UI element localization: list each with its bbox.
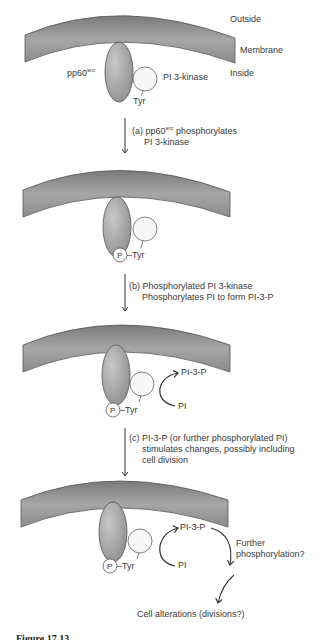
label-phosphate: P — [117, 250, 122, 261]
label-outside: Outside — [230, 14, 261, 25]
cell-alteration-arrow — [218, 575, 234, 603]
label-pi: PI — [178, 401, 187, 412]
label-further-2: phosphorylation? — [236, 549, 305, 560]
label-p-tyr: –Tyr — [117, 561, 135, 572]
figure-caption: Figure 17.13 — [16, 633, 69, 640]
step-b-text: (b) Phosphorylated PI 3-kinase Phosphory… — [129, 281, 274, 303]
panel-4 — [21, 481, 234, 603]
label-pi3p: PI-3-P — [180, 522, 206, 533]
label-pi: PI — [178, 560, 187, 571]
label-cell-alterations: Cell alterations (divisions?) — [137, 609, 245, 620]
pp60src-protein — [105, 42, 133, 102]
label-pi3p: PI-3-P — [181, 367, 207, 378]
label-p-tyr: –Tyr — [120, 405, 138, 416]
label-p-tyr: –Tyr — [127, 250, 145, 261]
label-inside: Inside — [230, 68, 254, 79]
label-membrane: Membrane — [240, 45, 283, 56]
step-a-text: (a) pp60src phosphorylates PI 3-kinase — [132, 123, 237, 148]
further-phosphorylation-arrow — [211, 528, 231, 565]
label-phosphate: P — [107, 561, 112, 572]
step-c-text: (c) PI-3-P (or further phosphorylated PI… — [129, 433, 295, 466]
pi3-kinase — [133, 67, 157, 91]
label-pp60src: pp60src — [67, 65, 95, 79]
label-further-1: Further — [236, 538, 265, 549]
label-phosphate: P — [110, 405, 115, 416]
label-pi3-kinase: PI 3-kinase — [163, 72, 208, 83]
pathway-diagram — [0, 0, 330, 640]
label-tyr: Tyr — [133, 96, 146, 107]
pi-to-pi3p-arrow — [160, 373, 178, 406]
